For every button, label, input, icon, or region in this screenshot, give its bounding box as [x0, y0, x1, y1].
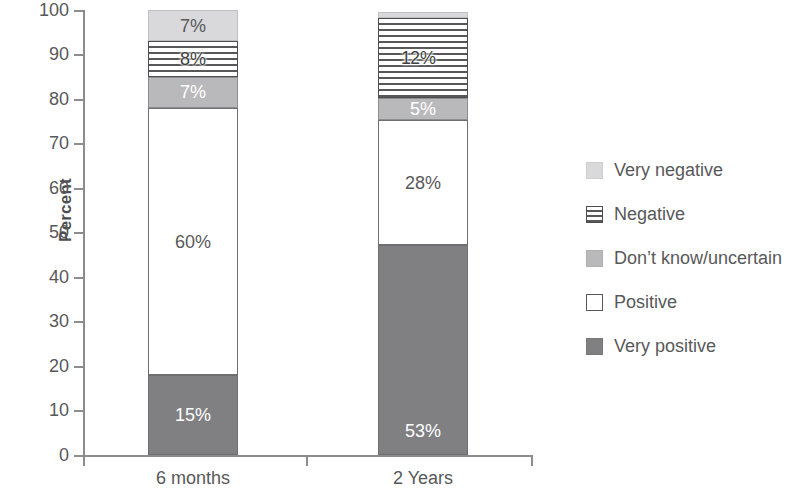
y-tick-20	[74, 366, 83, 368]
segment-label-very-positive: 53%	[405, 422, 441, 440]
legend-label-very-positive: Very positive	[614, 337, 716, 355]
legend-item-positive: Positive	[586, 280, 804, 324]
y-tick-label-90: 90	[9, 45, 69, 63]
legend-label-negative: Negative	[614, 205, 685, 223]
white-swatch-icon	[586, 294, 603, 311]
bar-6-months: 7% 8% 7% 60% 15%	[148, 10, 238, 455]
segment-label-very-positive: 15%	[175, 406, 211, 424]
segment-dont-know: 5%	[378, 98, 468, 120]
y-axis-line	[83, 10, 85, 456]
y-tick-label-80: 80	[9, 90, 69, 108]
stacked-bar-chart: Percent 100 90 80 70 60 50 40 30 20 10 0…	[0, 0, 804, 498]
segment-label-dont-know: 5%	[410, 100, 436, 118]
y-tick-60	[74, 188, 83, 190]
x-category-label-2-years: 2 Years	[323, 468, 523, 489]
medium-gray-swatch-icon	[586, 250, 603, 267]
y-tick-50	[74, 232, 83, 234]
y-axis-title: Percent	[56, 140, 76, 280]
y-tick-label-70: 70	[9, 134, 69, 152]
dark-gray-swatch-icon	[586, 338, 603, 355]
legend-label-positive: Positive	[614, 293, 677, 311]
y-tick-40	[74, 277, 83, 279]
x-tick-start	[83, 455, 85, 466]
y-tick-label-0: 0	[9, 446, 69, 464]
y-tick-label-10: 10	[9, 401, 69, 419]
segment-label-very-negative: 7%	[180, 17, 206, 35]
segment-label-dont-know: 7%	[180, 83, 206, 101]
segment-very-positive: 53%	[378, 245, 468, 455]
y-tick-label-20: 20	[9, 357, 69, 375]
segment-label-positive: 60%	[175, 233, 211, 251]
legend-item-negative: Negative	[586, 192, 804, 236]
segment-positive: 60%	[148, 108, 238, 375]
y-tick-label-30: 30	[9, 312, 69, 330]
y-tick-0	[74, 455, 83, 457]
segment-label-negative: 8%	[180, 50, 206, 68]
legend-item-dont-know: Don’t know/uncertain	[586, 236, 804, 280]
light-gray-swatch-icon	[586, 162, 603, 179]
legend-label-dont-know: Don’t know/uncertain	[614, 249, 782, 267]
segment-label-positive: 28%	[405, 174, 441, 192]
y-tick-80	[74, 99, 83, 101]
x-category-label-6-months: 6 months	[93, 468, 293, 489]
y-tick-100	[74, 10, 83, 12]
y-tick-label-50: 50	[9, 223, 69, 241]
segment-very-positive: 15%	[148, 375, 238, 455]
segment-label-very-negative: 1	[344, 49, 468, 67]
legend-label-very-negative: Very negative	[614, 161, 723, 179]
segment-very-negative: 7%	[148, 10, 238, 41]
y-tick-30	[74, 321, 83, 323]
legend-item-very-positive: Very positive	[586, 324, 804, 368]
y-tick-label-40: 40	[9, 268, 69, 286]
bar-2-years: 2% 1 5% 28% 53%	[378, 12, 468, 455]
x-axis-line	[83, 455, 533, 457]
legend-item-very-negative: Very negative	[586, 148, 804, 192]
striped-swatch-icon	[586, 206, 603, 223]
y-tick-70	[74, 143, 83, 145]
y-tick-label-60: 60	[9, 179, 69, 197]
segment-negative: 8%	[148, 41, 238, 77]
x-tick-end	[531, 455, 533, 466]
segment-dont-know: 7%	[148, 77, 238, 108]
y-tick-90	[74, 54, 83, 56]
segment-positive: 28%	[378, 120, 468, 245]
y-tick-10	[74, 410, 83, 412]
x-tick-middle	[306, 455, 308, 466]
legend: Very negative Negative Don’t know/uncert…	[586, 148, 804, 368]
y-tick-label-100: 100	[9, 1, 69, 19]
